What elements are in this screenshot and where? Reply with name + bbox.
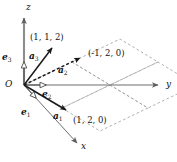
e3-subscript: 3 — [8, 56, 12, 63]
a2-symbol: a — [58, 65, 64, 75]
a1-subscript: 1 — [59, 115, 63, 122]
lattice-vector-label-a2: a2 — [58, 66, 68, 75]
basis-vector-label-e3: e3 — [2, 53, 12, 62]
figure-canvas: O z y x e3 e2 e1 a3 a2 a1 (1, 1, 2) (-1,… — [0, 0, 177, 162]
lattice-vector-label-a1: a1 — [53, 112, 63, 121]
point-label-1-2-0: (1, 2, 0) — [73, 116, 107, 125]
e2-subscript: 2 — [48, 93, 52, 100]
basis-vector-label-e1: e1 — [21, 108, 31, 117]
axis-label-x: x — [81, 142, 86, 151]
a3-subscript: 3 — [35, 55, 39, 62]
point-label-minus1-2-0: (-1, 2, 0) — [88, 49, 125, 58]
a3-symbol: a — [29, 51, 35, 61]
origin-label: O — [5, 80, 12, 89]
e1-symbol: e — [21, 107, 27, 117]
basis-vector-label-e2: e2 — [42, 90, 52, 99]
lattice-cell-3 — [72, 39, 158, 85]
a1-symbol: a — [53, 111, 59, 121]
a2-subscript: 2 — [64, 69, 68, 76]
vector-diagram-svg — [0, 0, 177, 162]
axis-label-z: z — [26, 3, 31, 12]
point-label-1-1-2: (1, 1, 2) — [30, 33, 64, 42]
e2-symbol: e — [42, 89, 48, 99]
axis-label-y: y — [166, 80, 171, 89]
e1-subscript: 1 — [27, 111, 31, 118]
lattice-vector-label-a3: a3 — [29, 52, 39, 61]
e3-symbol: e — [2, 52, 8, 62]
